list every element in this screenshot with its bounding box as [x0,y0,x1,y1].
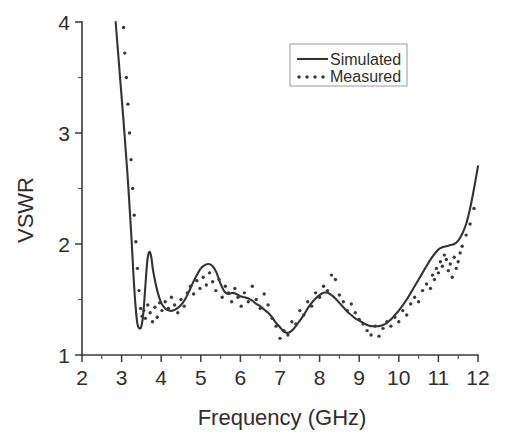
measured-point [435,267,438,270]
measured-point [146,303,149,306]
measured-point [431,273,434,276]
measured-point [464,233,467,236]
measured-point [198,287,201,290]
measured-point [460,245,463,248]
legend-dot [313,75,317,79]
measured-point [230,300,233,303]
measured-point [148,311,151,314]
chart-legend: Simulated Measured [290,44,407,86]
measured-point [195,279,198,282]
measured-point [310,304,313,307]
measured-point [251,284,254,287]
measured-point [381,327,384,330]
measured-point [445,258,448,261]
measured-point [443,253,446,256]
measured-point [270,317,273,320]
measured-point [167,307,170,310]
measured-point [451,276,454,279]
measured-point [224,284,227,287]
legend-dot [305,75,309,79]
measured-point [302,313,305,316]
measured-point [290,320,293,323]
measured-point [176,311,179,314]
measured-point [262,292,265,295]
measured-point [133,213,136,216]
measured-point [437,271,440,274]
measured-point [334,278,337,281]
measured-point [421,289,424,292]
measured-point [142,309,145,312]
measured-point [179,298,182,301]
measured-point [385,320,388,323]
measured-point [389,324,392,327]
measured-point [468,222,471,225]
measured-point [192,292,195,295]
measured-point [413,296,416,299]
measured-point [208,271,211,274]
measured-point [373,324,376,327]
y-axis-title: VSWR [13,177,38,243]
y-tick-label: 1 [58,344,70,367]
measured-point [306,300,309,303]
measured-point [160,309,163,312]
measured-point [140,314,143,317]
measured-point [266,303,269,306]
measured-point [409,302,412,305]
measured-point [239,304,242,307]
measured-point [298,309,301,312]
vswr-frequency-chart: 1234 23456789101112 VSWR Frequency (GHz)… [0,0,516,439]
measured-point [236,296,239,299]
measured-point [156,316,159,319]
measured-point [377,334,380,337]
measured-point [163,300,166,303]
measured-point [189,284,192,287]
measured-point [417,300,420,303]
measured-point [354,311,357,314]
measured-point [322,284,325,287]
measured-point [282,329,285,332]
measured-point [318,296,321,299]
measured-point [274,324,277,327]
measured-point [170,296,173,299]
measured-point [227,291,230,294]
measured-point [123,51,126,54]
measured-point [346,309,349,312]
measured-point [458,251,461,254]
measured-point [453,256,456,259]
measured-point [233,287,236,290]
measured-point [205,283,208,286]
measured-point [131,187,134,190]
measured-point [151,320,154,323]
measured-point [472,207,475,210]
chart-canvas: 1234 23456789101112 VSWR Frequency (GHz)… [0,0,516,439]
measured-point [211,280,214,283]
measured-point [455,267,458,270]
x-axis-title: Frequency (GHz) [198,405,367,430]
measured-point [278,337,281,340]
x-tick-label: 10 [387,366,410,389]
measured-point [243,291,246,294]
legend-label-simulated: Simulated [330,51,401,68]
measured-point [144,317,147,320]
legend-label-measured: Measured [330,68,401,85]
measured-point [439,260,442,263]
measured-point [286,333,289,336]
x-tick-label: 2 [76,366,88,389]
x-tick-label: 9 [353,366,365,389]
x-tick-label: 11 [427,366,449,389]
x-tick-label: 6 [235,366,247,389]
measured-point [214,289,217,292]
measured-point [314,291,317,294]
measured-point [342,300,345,303]
measured-point [401,309,404,312]
measured-point [447,269,450,272]
y-tick-label: 3 [58,122,70,145]
x-tick-label: 4 [155,366,167,389]
measured-point [136,267,139,270]
measured-point [338,293,341,296]
measured-point [457,260,460,263]
measured-point [361,322,364,325]
measured-point [247,300,250,303]
y-tick-label: 4 [58,11,70,34]
measured-point [441,265,444,268]
